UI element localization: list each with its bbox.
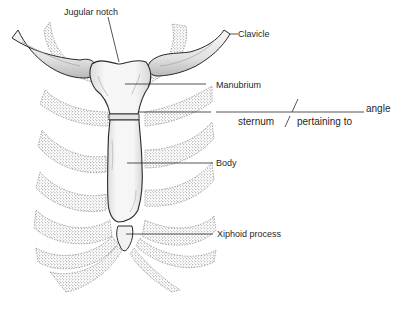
- sternum-illustration: [0, 0, 403, 310]
- right-clavicle: [148, 30, 230, 76]
- manubrium-shape: [90, 61, 151, 114]
- label-manubrium: Manubrium: [216, 80, 261, 90]
- slash-divider-lower: [285, 116, 290, 127]
- label-xiphoid-process: Xiphoid process: [217, 229, 281, 239]
- label-jugular-notch: Jugular notch: [64, 7, 118, 17]
- word-part-sternum: sternum: [238, 116, 274, 127]
- leader-jugular-notch: [108, 17, 119, 62]
- label-body: Body: [216, 158, 237, 168]
- label-clavicle: Clavicle: [238, 29, 270, 39]
- suffix-angle: angle: [366, 103, 390, 114]
- sternal-angle-joint: [109, 114, 139, 120]
- sternum-body-shape: [108, 120, 143, 222]
- slash-divider-upper: [292, 99, 298, 112]
- xiphoid-process-shape: [117, 226, 133, 251]
- word-part-pertaining-to: pertaining to: [297, 116, 352, 127]
